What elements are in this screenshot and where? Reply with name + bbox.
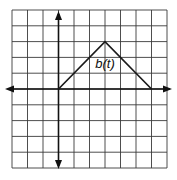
axes: [5, 11, 172, 169]
graph: b(t): [0, 0, 177, 180]
y-axis-top-arrow-icon: [55, 11, 62, 20]
x-axis-right-arrow-icon: [163, 86, 172, 93]
x-axis-left-arrow-icon: [5, 86, 14, 93]
function-label: b(t): [95, 56, 115, 71]
